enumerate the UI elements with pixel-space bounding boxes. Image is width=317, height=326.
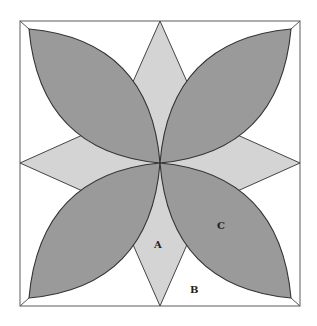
label-c: C [217,220,225,231]
quilt-diagram: A B C [0,0,317,326]
label-a: A [153,239,162,250]
label-b: B [190,284,198,295]
